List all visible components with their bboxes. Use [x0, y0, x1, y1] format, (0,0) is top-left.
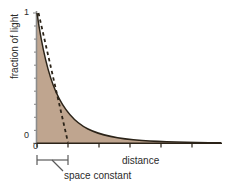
decay-plot	[0, 0, 228, 190]
y-axis-min-tick-label: 0	[24, 130, 29, 140]
y-axis-label: fraction of light	[9, 4, 20, 90]
space-constant-label: space constant	[64, 170, 131, 181]
x-axis-origin-tick-label: 0	[33, 141, 38, 151]
y-axis-max-tick-label: 1	[24, 7, 29, 17]
figure: fraction of light distance space constan…	[0, 0, 228, 190]
x-axis-label: distance	[122, 155, 159, 166]
space-constant-bracket	[37, 155, 68, 171]
